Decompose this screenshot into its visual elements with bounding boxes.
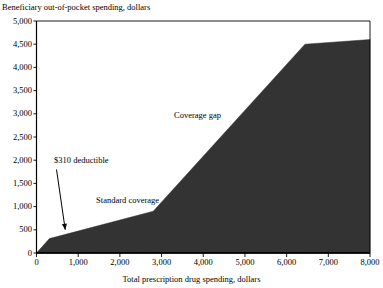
area-series — [37, 40, 371, 253]
annotation-arrow-line — [57, 169, 66, 229]
chart-container: Beneficiary out-of-pocket spending, doll… — [0, 0, 383, 288]
annotation-coverage-gap: Coverage gap — [174, 111, 221, 120]
x-axis-title: Total prescription drug spending, dollar… — [0, 274, 383, 284]
annotation-arrow-head — [62, 223, 67, 229]
plot-area — [0, 0, 383, 288]
annotation-catastrophic-coverage: Catastrophic coverage — [268, 25, 344, 34]
annotation-deductible: $310 deductible — [54, 156, 109, 165]
annotation-standard-coverage: Standard coverage — [96, 196, 159, 205]
